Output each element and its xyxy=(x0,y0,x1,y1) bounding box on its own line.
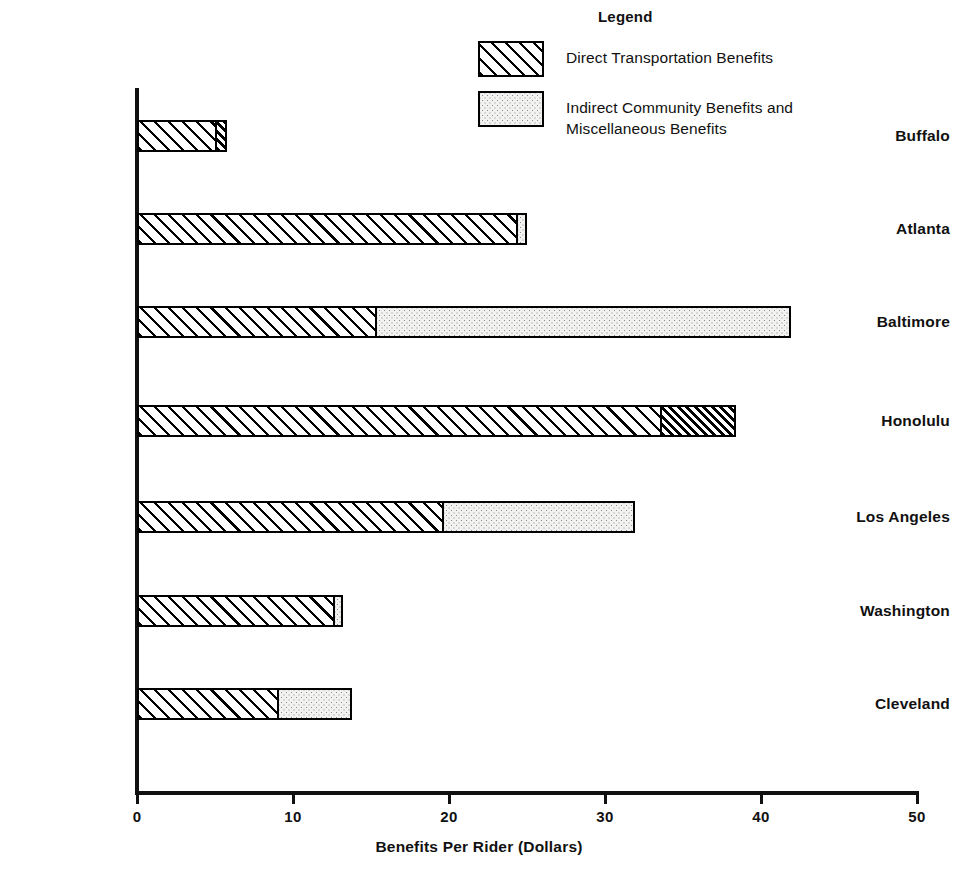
bar-los-angeles xyxy=(137,501,635,533)
x-axis-line xyxy=(135,791,917,795)
x-axis-title: Benefits Per Rider (Dollars) xyxy=(0,838,958,856)
bar-segment-hatch xyxy=(139,308,375,336)
x-axis-tick-label: 50 xyxy=(908,808,925,825)
x-axis-tick-label: 20 xyxy=(440,808,457,825)
category-label: Buffalo xyxy=(830,127,958,145)
bar-segment-hatch xyxy=(139,215,516,243)
bar-segment-hatch xyxy=(139,597,333,625)
bar-segment-hatch xyxy=(139,122,215,150)
bar-segment-hatch xyxy=(139,690,277,718)
category-label: Baltimore xyxy=(830,313,958,331)
bar-segment-dots xyxy=(333,597,341,625)
category-label: Washington xyxy=(830,602,958,620)
bar-segment-dots xyxy=(442,503,632,531)
category-label: Atlanta xyxy=(830,220,958,238)
x-axis-tick xyxy=(136,791,139,804)
category-label: Los Angeles xyxy=(830,508,958,526)
x-axis-tick-label: 0 xyxy=(133,808,142,825)
bar-buffalo xyxy=(137,120,227,152)
x-axis-tick-label: 10 xyxy=(284,808,301,825)
x-axis-tick xyxy=(916,791,919,804)
chart-root: Legend Direct Transportation BenefitsInd… xyxy=(0,0,958,885)
category-label: Honolulu xyxy=(830,412,958,430)
bar-segment-hatch-dense xyxy=(660,407,734,435)
plot-area: 01020304050 BuffaloAtlantaBaltimoreHonol… xyxy=(0,0,958,885)
x-axis-tick xyxy=(604,791,607,804)
bar-segment-dots xyxy=(375,308,789,336)
bar-baltimore xyxy=(137,306,791,338)
x-axis-tick xyxy=(292,791,295,804)
category-label: Cleveland xyxy=(830,695,958,713)
x-axis-tick-label: 40 xyxy=(752,808,769,825)
bar-atlanta xyxy=(137,213,527,245)
bar-cleveland xyxy=(137,688,352,720)
bar-segment-hatch-dense xyxy=(215,122,225,150)
x-axis-tick-label: 30 xyxy=(596,808,613,825)
bar-honolulu xyxy=(137,405,736,437)
bar-washington xyxy=(137,595,343,627)
x-axis-tick xyxy=(448,791,451,804)
bar-segment-hatch xyxy=(139,407,660,435)
x-axis-tick xyxy=(760,791,763,804)
bar-segment-dots xyxy=(277,690,350,718)
bar-segment-hatch xyxy=(139,503,442,531)
bar-segment-dots xyxy=(516,215,525,243)
